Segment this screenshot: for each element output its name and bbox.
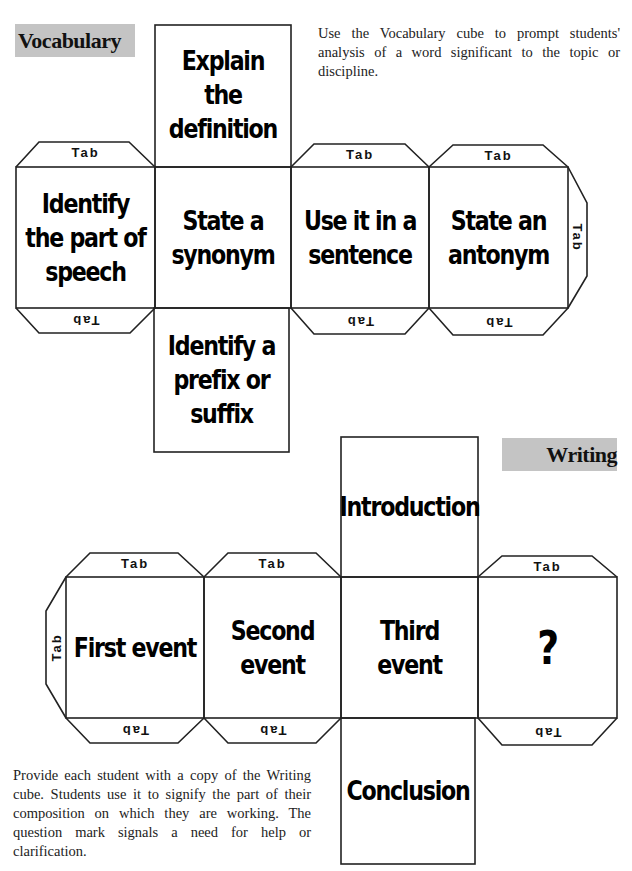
vocab-tab-bottom-3: Tab bbox=[291, 314, 429, 329]
vocab-tab-side-right: Tab bbox=[570, 208, 585, 268]
writing-tab-top-4: Tab bbox=[478, 559, 617, 574]
vocab-tab-top-3: Tab bbox=[291, 147, 429, 162]
vocab-face-4: State an antonym bbox=[437, 170, 561, 305]
writing-tab-side-left: Tab bbox=[49, 618, 64, 678]
vocab-face-1: Identify the part of speech bbox=[24, 170, 148, 305]
writing-tab-top-1: Tab bbox=[66, 556, 204, 571]
writing-tab-bottom-1: Tab bbox=[66, 723, 204, 738]
writing-face-1: First event bbox=[74, 580, 197, 715]
cube-net-outlines bbox=[0, 0, 632, 871]
vocab-face-3: Use it in a sentence bbox=[297, 170, 423, 305]
writing-tab-bottom-2: Tab bbox=[204, 723, 341, 738]
writing-face-top: Introduction bbox=[349, 440, 470, 574]
vocab-face-top: Explain the definition bbox=[163, 35, 283, 155]
vocab-tab-top-1: Tab bbox=[16, 145, 155, 160]
writing-face-4: ? bbox=[491, 580, 605, 715]
writing-tab-bottom-4: Tab bbox=[478, 725, 617, 740]
writing-face-3: Third event bbox=[349, 580, 470, 715]
vocab-face-bottom: Identify a prefix or suffix bbox=[162, 312, 281, 448]
vocab-tab-bottom-4: Tab bbox=[429, 315, 568, 330]
vocab-tab-top-4: Tab bbox=[429, 148, 568, 163]
vocab-face-2: State a synonym bbox=[163, 170, 283, 305]
writing-tab-top-2: Tab bbox=[204, 556, 341, 571]
vocab-tab-bottom-1: Tab bbox=[16, 313, 155, 328]
writing-face-2: Second event bbox=[211, 580, 333, 715]
writing-face-bottom: Conclusion bbox=[349, 721, 467, 861]
